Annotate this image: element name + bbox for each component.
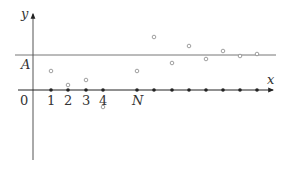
origin-label: 0 bbox=[20, 93, 28, 108]
sequence-limit-diagram: y x 0 A 1 2 3 4 N bbox=[0, 0, 291, 169]
x-axis-label: x bbox=[267, 72, 275, 87]
limit-label: A bbox=[20, 57, 30, 72]
x-tick-label-1: 1 bbox=[47, 93, 55, 108]
x-tick-label-n: N bbox=[131, 93, 144, 108]
x-tick-label-2: 2 bbox=[64, 93, 72, 108]
x-tick-label-3: 3 bbox=[82, 93, 90, 108]
open-points bbox=[49, 35, 259, 109]
y-axis-label: y bbox=[20, 6, 29, 21]
